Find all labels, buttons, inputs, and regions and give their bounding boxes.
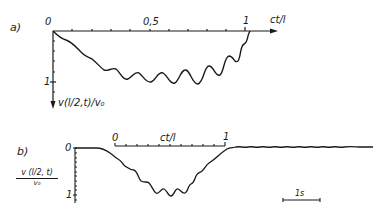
panel-a-x-tick-1: 1 [243,16,249,26]
panel-b-x-axis-label: ct/l [160,133,176,143]
panel-a-y-axis-label: v(l/2,t)/v₀ [58,98,105,108]
panel-a-x-tick-05: 0,5 [143,17,159,27]
y-label-numerator: v (l/2, t) [16,168,58,179]
panel-a-curve [53,31,250,84]
panel-b-x-tick-0: 0 [112,133,118,143]
panel-a-y-tick-1: 1 [44,77,50,87]
y-label-denominator: v₀ [16,179,58,188]
panel-b-y-tick-1: 1 [66,190,72,200]
scale-bar-label: 1s [295,190,304,198]
panel-b-curve [75,147,373,196]
panel-b-y-axis-label: v (l/2, t) v₀ [16,168,58,188]
panel-b-y-tick-0: 0 [65,143,71,153]
panel-a-label: a) [10,23,21,33]
panel-a-x-tick-0: 0 [45,17,51,27]
panel-b-label: b) [17,147,28,157]
panel-b-x-tick-1: 1 [223,132,229,142]
panel-a-x-axis-label: ct/l [270,15,286,25]
panel-b-axes [73,142,320,203]
